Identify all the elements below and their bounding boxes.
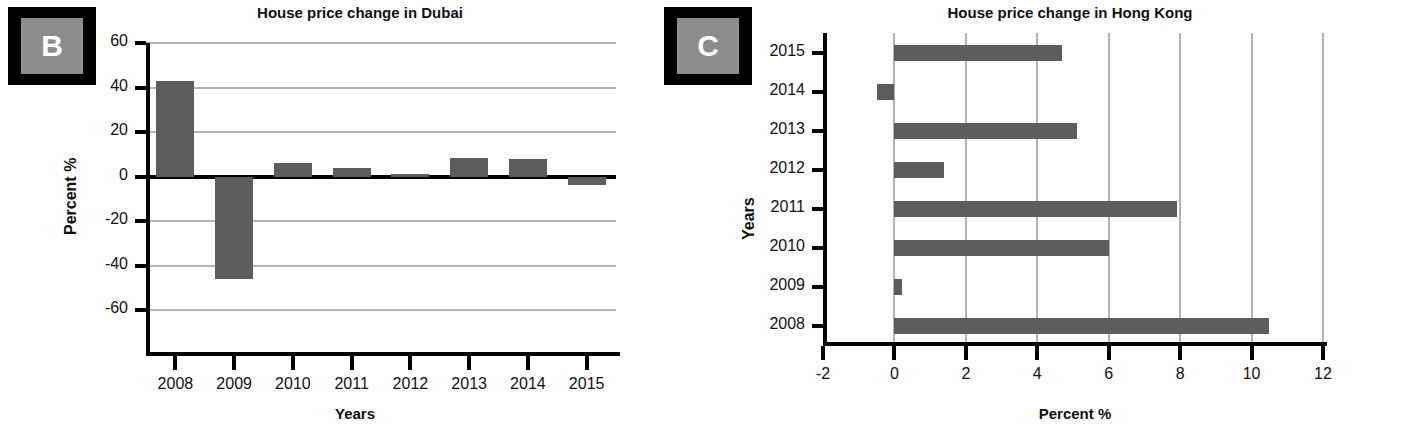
bar-dubai-2010 [274, 163, 312, 176]
y-axis-title-hongkong: Years [740, 197, 758, 240]
figure-panels: B House price change in Dubai 6040200-20… [0, 0, 1410, 437]
y-ticklabel--60: -60 [105, 299, 128, 317]
y-ticklabel--20: -20 [105, 210, 128, 228]
y-tick-hk-2012 [812, 168, 823, 172]
y-tick-hk-2008 [812, 324, 823, 328]
gridline-x-6 [1108, 33, 1110, 345]
y-tick--40 [135, 264, 146, 268]
x-tick-2013 [467, 356, 471, 370]
y-tick-hk-2015 [812, 51, 823, 55]
y-tick-60 [135, 41, 146, 45]
y-axis-line-hk [823, 33, 827, 345]
panel-badge-c: C [664, 7, 752, 85]
x-ticklabel-hk-2: 2 [961, 365, 970, 383]
x-tick-hk-10 [1250, 346, 1254, 360]
x-tick-2015 [585, 356, 589, 370]
x-axis-line-dubai [146, 352, 620, 356]
panel-badge-c-letter: C [697, 31, 719, 61]
bar-hongkong-2015 [894, 45, 1062, 61]
bar-dubai-2014 [509, 159, 547, 177]
bar-dubai-2011 [333, 168, 371, 177]
x-ticklabel-2014: 2014 [510, 375, 546, 393]
bar-hongkong-2009 [894, 279, 901, 295]
bar-hongkong-2011 [894, 201, 1176, 217]
x-tick-2014 [526, 356, 530, 370]
gridline-x-10 [1251, 33, 1253, 345]
y-tick-hk-2009 [812, 285, 823, 289]
y-ticklabel-20: 20 [110, 121, 128, 139]
x-tick-hk-12 [1321, 346, 1325, 360]
gridline-y-60 [146, 42, 616, 44]
y-ticklabel-hk-2009: 2009 [769, 276, 805, 294]
x-axis-title-hongkong: Percent % [1039, 405, 1112, 422]
bar-dubai-2012 [391, 174, 429, 176]
x-ticklabel-hk--2: -2 [816, 365, 830, 383]
chart-title-dubai: House price change in Dubai [120, 4, 600, 21]
y-ticklabel--40: -40 [105, 255, 128, 273]
panel-badge-c-inner: C [677, 18, 739, 74]
x-ticklabel-2015: 2015 [569, 375, 605, 393]
y-ticklabel-hk-2013: 2013 [769, 120, 805, 138]
gridline-x-8 [1179, 33, 1181, 345]
x-ticklabel-2008: 2008 [158, 375, 194, 393]
x-ticklabel-2010: 2010 [275, 375, 311, 393]
gridline-y--60 [146, 309, 616, 311]
y-ticklabel-hk-2014: 2014 [769, 81, 805, 99]
y-tick-hk-2013 [812, 129, 823, 133]
x-tick-2010 [291, 356, 295, 370]
bar-hongkong-2010 [894, 240, 1108, 256]
y-ticklabel-hk-2011: 2011 [771, 198, 805, 216]
chart-title-hongkong: House price change in Hong Kong [760, 4, 1380, 21]
gridline-x-4 [1036, 33, 1038, 345]
bar-hongkong-2008 [894, 318, 1269, 334]
x-ticklabel-hk-8: 8 [1176, 365, 1185, 383]
y-ticklabel-40: 40 [110, 77, 128, 95]
bar-hongkong-2014 [877, 84, 895, 100]
bar-dubai-2015 [568, 177, 606, 185]
x-tick-2008 [173, 356, 177, 370]
x-tick-2012 [408, 356, 412, 370]
y-ticklabel-hk-2010: 2010 [769, 237, 805, 255]
x-tick-hk-2 [964, 346, 968, 360]
bar-dubai-2009 [215, 177, 253, 280]
y-tick-40 [135, 86, 146, 90]
panel-badge-b-inner: B [21, 18, 83, 74]
x-ticklabel-2009: 2009 [216, 375, 252, 393]
y-ticklabel-hk-2015: 2015 [769, 42, 805, 60]
y-tick-hk-2014 [812, 90, 823, 94]
gridline-x-12 [1322, 33, 1324, 345]
y-tick-hk-2010 [812, 246, 823, 250]
x-ticklabel-2012: 2012 [393, 375, 429, 393]
y-tick--60 [135, 308, 146, 312]
x-tick-hk-0 [892, 346, 896, 360]
bar-dubai-2008 [156, 81, 194, 177]
x-ticklabel-hk-0: 0 [890, 365, 899, 383]
x-tick-hk-6 [1107, 346, 1111, 360]
y-tick-0 [135, 175, 146, 179]
y-ticklabel-0: 0 [119, 166, 128, 184]
x-tick-hk-8 [1178, 346, 1182, 360]
x-ticklabel-2013: 2013 [451, 375, 487, 393]
y-axis-title-dubai: Percent % [62, 158, 80, 235]
y-ticklabel-60: 60 [110, 32, 128, 50]
y-tick--20 [135, 219, 146, 223]
x-ticklabel-hk-6: 6 [1104, 365, 1113, 383]
x-ticklabel-hk-12: 12 [1314, 365, 1332, 383]
y-ticklabel-hk-2012: 2012 [769, 159, 805, 177]
gridline-x-2 [965, 33, 967, 345]
chart-hongkong: C House price change in Hong Kong -20246… [660, 0, 1410, 437]
x-tick-2009 [232, 356, 236, 370]
x-tick-2011 [350, 356, 354, 370]
chart-dubai: B House price change in Dubai 6040200-20… [0, 0, 660, 437]
panel-badge-b: B [8, 7, 96, 85]
x-tick-hk--2 [821, 346, 825, 360]
gridline-y-20 [146, 131, 616, 133]
x-tick-hk-4 [1035, 346, 1039, 360]
panel-badge-b-letter: B [41, 31, 63, 61]
plot-area-dubai: 6040200-20-40-60200820092010201120122013… [146, 43, 616, 355]
y-tick-hk-2011 [812, 207, 823, 211]
plot-area-hongkong: -202468101220152014201320122011201020092… [823, 33, 1323, 345]
y-axis-line-dubai [146, 43, 150, 355]
x-ticklabel-hk-10: 10 [1243, 365, 1261, 383]
x-ticklabel-2011: 2011 [334, 375, 368, 393]
